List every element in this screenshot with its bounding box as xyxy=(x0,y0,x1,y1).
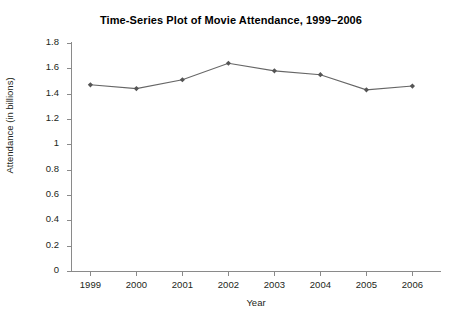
x-tick-mark xyxy=(182,271,183,276)
x-tick-mark xyxy=(274,271,275,276)
y-tick-label: 0.6 xyxy=(46,188,59,199)
x-tick-label: 2006 xyxy=(402,279,423,290)
x-tick-label: 2002 xyxy=(218,279,239,290)
data-point-marker xyxy=(364,87,369,92)
y-tick-label: 0.8 xyxy=(46,163,59,174)
x-tick-label: 2005 xyxy=(356,279,377,290)
series-polyline xyxy=(90,63,412,90)
y-tick-label: 0 xyxy=(54,264,59,275)
x-tick-label: 2000 xyxy=(126,279,147,290)
data-point-marker xyxy=(180,77,185,82)
x-tick-label: 1999 xyxy=(80,279,101,290)
x-axis-label: Year xyxy=(72,297,440,308)
data-series-line xyxy=(72,43,440,271)
data-point-marker xyxy=(272,68,277,73)
x-tick-label: 2001 xyxy=(172,279,193,290)
x-axis-line xyxy=(71,271,441,272)
y-tick-label: 0.4 xyxy=(46,213,59,224)
x-tick-label: 2003 xyxy=(264,279,285,290)
y-tick-label: 1.6 xyxy=(46,61,59,72)
y-tick-label: 1 xyxy=(54,137,59,148)
y-tick-label: 1.4 xyxy=(46,87,59,98)
x-tick-mark xyxy=(228,271,229,276)
data-point-marker xyxy=(88,82,93,87)
y-axis-label: Attendance (in billions) xyxy=(4,0,15,261)
x-tick-mark xyxy=(136,271,137,276)
chart-title: Time-Series Plot of Movie Attendance, 19… xyxy=(0,14,462,26)
data-point-marker xyxy=(410,83,415,88)
x-tick-mark xyxy=(90,271,91,276)
y-tick-label: 1.8 xyxy=(46,36,59,47)
data-point-marker xyxy=(226,61,231,66)
y-tick-mark: 0 xyxy=(67,271,72,272)
data-point-marker xyxy=(134,86,139,91)
chart-figure: Time-Series Plot of Movie Attendance, 19… xyxy=(0,0,462,323)
x-tick-label: 2004 xyxy=(310,279,331,290)
y-tick-label: 0.2 xyxy=(46,239,59,250)
x-tick-mark xyxy=(320,271,321,276)
data-point-marker xyxy=(318,72,323,77)
plot-area: 00.20.40.60.811.21.41.61.8 1999200020012… xyxy=(72,43,440,271)
x-tick-mark xyxy=(412,271,413,276)
x-tick-mark xyxy=(366,271,367,276)
y-tick-label: 1.2 xyxy=(46,112,59,123)
